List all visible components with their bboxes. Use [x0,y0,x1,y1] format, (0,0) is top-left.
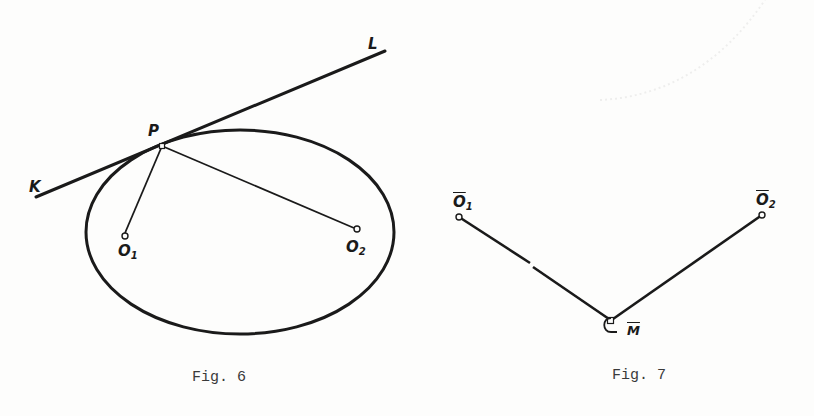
focus-o2-marker [354,226,360,232]
label-o2bar-main: O [756,191,769,209]
caption-fig6: Fig. 6 [192,370,246,385]
focus-o1-marker [122,233,128,239]
label-o2bar: O2 [756,193,776,210]
label-o1bar-sub: 1 [466,201,473,212]
label-o1bar: O1 [453,195,473,212]
label-o2: O2 [346,240,366,257]
label-o1-sub: 1 [131,250,138,261]
segment-o1bar-m-upper [459,217,530,263]
label-o1bar-main: O [453,193,466,211]
segment-o1bar-m-lower [533,267,609,319]
figure-7 [456,212,765,332]
ellipse [86,130,394,334]
figure-6 [36,51,394,334]
label-o2-main: O [346,238,359,256]
tangent-line-kl [36,51,385,197]
segment-p-o2 [162,146,354,228]
diagram-canvas [0,0,814,416]
segment-o2bar-m [613,215,762,319]
label-o1: O1 [118,244,138,261]
point-p-marker [160,144,165,149]
point-o2bar-marker [759,212,765,218]
label-k: K [29,180,41,195]
label-o2-sub: 2 [359,246,366,257]
label-o1-main: O [118,242,131,260]
point-o1bar-marker [456,214,462,220]
label-mbar: M [627,324,640,337]
caption-fig7: Fig. 7 [612,368,666,383]
label-l: L [368,37,378,52]
label-p: P [148,124,159,139]
label-o2bar-sub: 2 [769,199,776,210]
bleed-through-arc [600,0,765,100]
